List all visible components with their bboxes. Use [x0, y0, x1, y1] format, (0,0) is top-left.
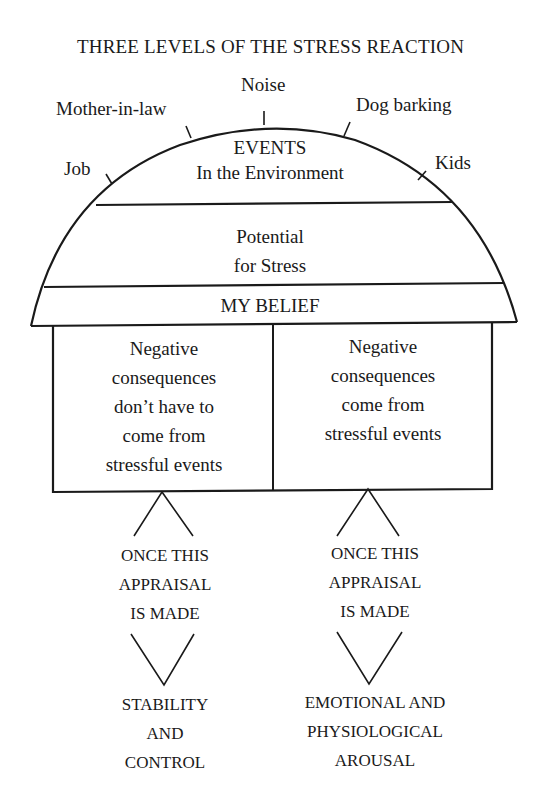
outcome-right-line: PHYSIOLOGICAL — [280, 717, 470, 746]
events-title: EVENTS — [170, 135, 370, 161]
belief-right-text: Negative consequences come from stressfu… — [276, 332, 490, 448]
appraisal-left-line: ONCE THIS — [80, 541, 250, 570]
belief-right-line: Negative — [276, 332, 490, 361]
events-subtitle: In the Environment — [140, 160, 400, 186]
belief-right-line: come from — [276, 390, 490, 419]
diagram-title: THREE LEVELS OF THE STRESS REACTION — [0, 36, 541, 58]
right-down-chevron — [337, 632, 402, 684]
outcome-left-line: STABILITY — [80, 690, 250, 719]
potential-line1: Potential — [170, 224, 370, 250]
outcome-left: STABILITY AND CONTROL — [80, 690, 250, 777]
belief-right-line: stressful events — [276, 419, 490, 448]
belief-left-line: stressful events — [55, 450, 273, 479]
belief-left-text: Negative consequences don’t have to come… — [55, 334, 273, 479]
outcome-right-line: AROUSAL — [280, 746, 470, 775]
belief-left-line: consequences — [55, 363, 273, 392]
tick-job — [106, 174, 112, 184]
label-kids: Kids — [435, 152, 471, 174]
outcome-left-line: AND — [80, 719, 250, 748]
appraisal-left-line: APPRAISAL — [80, 570, 250, 599]
events-divider — [96, 202, 453, 205]
label-dog-barking: Dog barking — [356, 94, 452, 116]
label-noise: Noise — [241, 74, 285, 96]
potential-line2: for Stress — [170, 253, 370, 279]
appraisal-right-line: IS MADE — [295, 597, 455, 626]
left-down-chevron — [131, 634, 194, 685]
appraisal-right: ONCE THIS APPRAISAL IS MADE — [295, 539, 455, 626]
outcome-right: EMOTIONAL AND PHYSIOLOGICAL AROUSAL — [280, 688, 470, 775]
appraisal-right-line: APPRAISAL — [295, 568, 455, 597]
belief-label: MY BELIEF — [170, 293, 370, 319]
belief-left-line: don’t have to — [55, 392, 273, 421]
potential-divider — [44, 283, 504, 287]
appraisal-right-line: ONCE THIS — [295, 539, 455, 568]
belief-right-line: consequences — [276, 361, 490, 390]
label-mother-in-law: Mother-in-law — [56, 98, 166, 120]
left-up-chevron — [134, 492, 193, 536]
belief-left-line: Negative — [55, 334, 273, 363]
appraisal-left-line: IS MADE — [80, 599, 250, 628]
appraisal-left: ONCE THIS APPRAISAL IS MADE — [80, 541, 250, 628]
belief-left-line: come from — [55, 421, 273, 450]
tick-dog-barking — [344, 122, 350, 136]
label-job: Job — [64, 158, 90, 180]
outcome-left-line: CONTROL — [80, 748, 250, 777]
right-up-chevron — [337, 489, 399, 536]
outcome-right-line: EMOTIONAL AND — [280, 688, 470, 717]
